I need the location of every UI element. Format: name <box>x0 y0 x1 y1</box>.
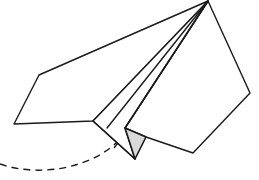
paper-airplane-diagram <box>0 0 259 180</box>
flight-path-dashed <box>0 137 122 170</box>
